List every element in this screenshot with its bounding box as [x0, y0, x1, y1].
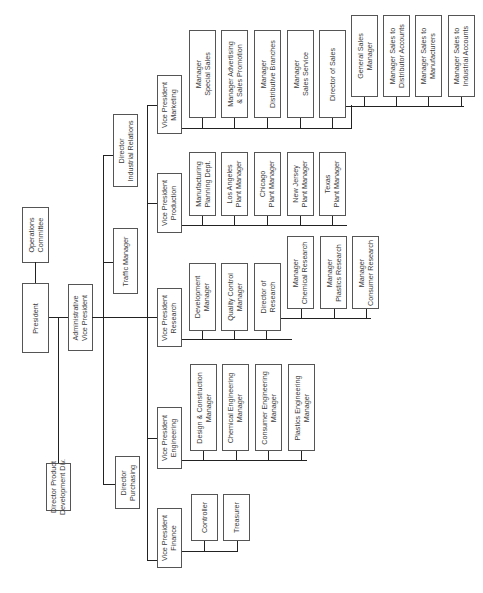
sales-item: Manager Sales to Manufacturers [415, 15, 442, 97]
finance-item: Controller [191, 494, 218, 541]
production-item-label: Manufacturing Planning Dept. [194, 160, 212, 207]
sales-item-label: Manager Sales to Distributor Accounts [388, 24, 406, 88]
research-sub-item-label: Manager Chemical Research [292, 241, 310, 304]
connector-line [203, 450, 204, 460]
sales-item-label: General Sales Manager [356, 33, 374, 79]
vp-marketing-box: Vice President Marketing [157, 75, 182, 134]
connector-line [182, 460, 307, 461]
connector-line [182, 551, 238, 552]
finance-item-label: Controller [200, 502, 209, 533]
sales-item-label: Manager Sales to Manufacturers [420, 28, 438, 84]
connector-line [202, 330, 203, 339]
marketing-item-label: Manager Advertising & Sales Promotion [226, 41, 244, 107]
vp-research-box: Vice President Research [157, 288, 182, 347]
marketing-item: Manager Sales Service [287, 30, 314, 118]
connector-line [182, 339, 292, 340]
director-of-sales-box: Director of Sales [319, 30, 346, 118]
vp-finance-label: Vice President Finance [161, 515, 179, 561]
sales-item: Manager Sales to Industrial Accounts [448, 15, 475, 97]
connector-line [234, 117, 235, 128]
research-sub-item: Manager Chemical Research [287, 236, 314, 309]
connector-line [103, 484, 115, 485]
president-label: President [31, 303, 40, 333]
connector-line [103, 155, 113, 156]
connector-line [301, 308, 302, 318]
connector-line [281, 318, 371, 319]
research-item: Development Manager [189, 263, 216, 331]
connector-line [334, 308, 335, 318]
vp-marketing-label: Vice President Marketing [161, 81, 179, 127]
connector-line [182, 128, 352, 129]
engineering-item-label: Chemical Engineering Manager [227, 372, 245, 442]
connector-line [366, 308, 367, 318]
connector-line [234, 330, 235, 339]
connector-line [202, 215, 203, 225]
admin-vp-label: Administrative Vice President [72, 294, 90, 340]
connector-line [147, 105, 157, 106]
production-item: Los Angeles Plant Manager [221, 152, 248, 216]
connector-line [268, 450, 269, 460]
operations-committee-box: Operations Committee [22, 207, 49, 263]
dir-product-dev-box: Director Product Development Div. [46, 463, 71, 511]
research-item-label: Quality Control Manager [226, 273, 244, 321]
dir-industrial-relations-label: Director Industrial Relations [117, 120, 135, 181]
connector-line [267, 215, 268, 225]
vp-production-box: Vice President Production [157, 173, 182, 233]
research-sub-item: Manager Plastics Research [320, 236, 347, 309]
director-of-research-box: Director of Research [254, 263, 281, 331]
production-item-label: New Jersey Plant Manager [292, 161, 310, 208]
connector-line [35, 262, 36, 284]
connector-line [236, 450, 237, 460]
connector-line [147, 203, 157, 204]
engineering-item: Chemical Engineering Manager [222, 364, 249, 451]
engineering-item: Plastics Engineering Manager [288, 364, 315, 451]
marketing-item-label: Manager Special Sales [194, 52, 212, 96]
connector-line [300, 117, 301, 128]
connector-line [461, 97, 462, 106]
connector-line [300, 215, 301, 225]
connector-line [267, 117, 268, 128]
production-item: New Jersey Plant Manager [287, 152, 314, 216]
finance-item: Treasurer [223, 494, 250, 541]
vp-engineering-label: Vice President Engineering [161, 415, 179, 461]
connector-line [428, 97, 429, 106]
connector-line [266, 330, 267, 339]
production-item: Manufacturing Planning Dept. [189, 152, 216, 216]
connector-line [202, 117, 203, 128]
engineering-item-label: Plastics Engineering Manager [293, 375, 311, 440]
engineering-item-label: Design & Construction Manager [195, 372, 213, 444]
connector-line [364, 97, 365, 106]
connector-line [301, 450, 302, 460]
production-item: Texas Plant Manager [319, 152, 346, 216]
marketing-item: Manager Special Sales [189, 30, 216, 118]
connector-line [346, 106, 464, 107]
production-item-label: Chicago Plant Manager [259, 161, 277, 208]
marketing-item-label: Director of Sales [328, 47, 337, 100]
research-sub-item-label: Manager Plastics Research [325, 244, 343, 302]
vp-finance-box: Vice President Finance [157, 508, 182, 568]
marketing-item-label: Manager Distributive Branches [259, 40, 277, 108]
dir-purchasing-label: Director Purchasing [119, 465, 137, 501]
engineering-item: Design & Construction Manager [190, 364, 217, 451]
traffic-manager-label: Traffic Manager [121, 236, 130, 286]
sales-item: Manager Sales to Distributor Accounts [383, 15, 410, 97]
connector-line [147, 438, 157, 439]
vp-production-label: Vice President Production [161, 180, 179, 226]
research-item-label: Development Manager [194, 276, 212, 318]
connector-line [332, 215, 333, 225]
production-item: Chicago Plant Manager [254, 152, 281, 216]
president-box: President [22, 283, 49, 353]
connector-line [204, 540, 205, 551]
research-sub-item: Manager Consumer Research [352, 236, 379, 309]
finance-item-label: Treasurer [232, 502, 241, 533]
vp-engineering-box: Vice President Engineering [157, 407, 182, 469]
marketing-item-label: Manager Sales Service [292, 52, 310, 96]
dir-product-dev-label: Director Product Development Div. [50, 459, 68, 515]
operations-committee-label: Operations Committee [27, 217, 45, 252]
connector-line [351, 105, 352, 129]
connector-line [237, 540, 238, 551]
connector-line [141, 317, 157, 318]
connector-line [332, 117, 333, 128]
vp-research-label: Vice President Research [161, 294, 179, 340]
connector-line [103, 155, 104, 485]
